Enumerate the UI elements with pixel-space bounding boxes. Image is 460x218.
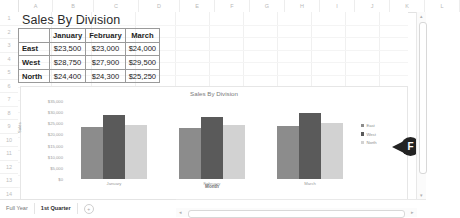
chart-bar-east[interactable] [81,127,103,179]
table-cell-value[interactable]: $27,900 [86,56,126,70]
chart-y-tick-label: $5,000 [50,165,63,170]
legend-swatch-east [361,124,364,127]
sales-data-table[interactable]: JanuaryFebruaryMarch East$23,500$23,000$… [18,28,160,83]
column-header-l[interactable]: L [425,0,460,12]
horizontal-scroll-thumb[interactable] [188,210,405,218]
chart-bar-group-february [163,101,261,179]
sheet-tab-bar[interactable]: Full Year1st Quarter+ [0,199,176,217]
table-cell-value[interactable]: $23,500 [50,42,86,56]
table-header-row: JanuaryFebruaryMarch [19,29,160,43]
chart-title: Sales By Division [21,90,407,97]
table-row-label-east[interactable]: East [19,42,50,56]
table-body: East$23,500$23,000$24,000West$28,750$27,… [19,42,160,83]
chart-y-tick-label: $0 [58,177,63,182]
column-header-d[interactable]: D [139,0,180,12]
chart-bar-group-march [261,101,359,179]
chart-bar-north[interactable] [321,123,343,179]
table-row[interactable]: East$23,500$23,000$24,000 [19,42,160,56]
legend-swatch-north [361,141,364,144]
chart-plot-area: JanuaryFebruaryMarch [65,101,359,179]
table-cell-value[interactable]: $24,000 [125,42,159,56]
chart-bar-north[interactable] [125,125,147,179]
excel-worksheet-window: ABCDEFGHIJKL 123456789101112131415 Sales… [0,0,426,217]
table-cell-value[interactable]: $28,750 [50,56,86,70]
chart-y-axis-title: Sales [17,123,22,133]
table-row[interactable]: North$24,400$24,300$25,250 [19,69,160,83]
column-header-f[interactable]: F [215,0,250,12]
column-header-k[interactable]: K [390,0,425,12]
table-corner-cell [19,29,50,43]
row-header-12[interactable]: 12 [0,161,18,175]
row-header-4[interactable]: 4 [0,53,18,67]
legend-swatch-west [361,132,364,135]
row-header-11[interactable]: 11 [0,147,18,161]
legend-label: North [366,140,376,145]
chart-y-axis: $35,000$30,000$25,000$20,000$15,000$10,0… [29,101,63,179]
chart-y-tick-label: $20,000 [48,132,63,137]
chart-y-tick-label: $10,000 [48,154,63,159]
vertical-scrollbar[interactable]: ▴ ▾ [416,12,426,200]
row-header-5[interactable]: 5 [0,66,18,80]
scroll-left-icon[interactable]: ◂ [176,208,185,217]
table-cell-value[interactable]: $24,300 [86,69,126,83]
sheet-tab-full-year[interactable]: Full Year [0,203,35,214]
scroll-right-icon[interactable]: ▸ [408,208,417,217]
column-header-h[interactable]: H [285,0,320,12]
column-header-j[interactable]: J [355,0,390,12]
legend-label: East [366,123,374,128]
chart-y-tick-label: $35,000 [48,99,63,104]
chart-bar-group-january [65,101,163,179]
table-cell-value[interactable]: $29,500 [125,56,159,70]
table-column-header-january[interactable]: January [50,29,86,43]
chart-legend-item-east[interactable]: East [361,123,401,128]
row-header-7[interactable]: 7 [0,93,18,107]
worksheet-title: Sales By Division [22,13,120,27]
column-header-i[interactable]: I [320,0,355,12]
vertical-scroll-thumb[interactable] [419,22,427,174]
select-all-corner[interactable] [0,0,19,12]
table-row[interactable]: West$28,750$27,900$29,500 [19,56,160,70]
row-header-9[interactable]: 9 [0,120,18,134]
column-header-c[interactable]: C [94,0,139,12]
column-header-a[interactable]: A [19,0,53,12]
horizontal-scrollbar[interactable]: ◂ ▸ [176,208,417,217]
add-sheet-icon[interactable]: + [84,204,94,214]
row-header-1[interactable]: 1 [0,12,18,26]
table-cell-value[interactable]: $24,400 [50,69,86,83]
column-header-e[interactable]: E [180,0,215,12]
scroll-up-icon[interactable]: ▴ [417,12,426,21]
row-header-column: 123456789101112131415 [0,12,19,200]
chart-y-tick-label: $15,000 [48,143,63,148]
row-header-6[interactable]: 6 [0,80,18,94]
row-header-3[interactable]: 3 [0,39,18,53]
legend-label: West [366,132,375,137]
table-column-header-february[interactable]: February [86,29,126,43]
chart-bar-east[interactable] [277,126,299,179]
chart-y-tick-label: $25,000 [48,121,63,126]
chart-bar-east[interactable] [179,128,201,179]
chart-bar-west[interactable] [103,115,125,179]
table-column-header-march[interactable]: March [125,29,159,43]
chart-x-axis-title: Month [65,184,359,189]
chart-y-tick-label: $30,000 [48,110,63,115]
chart-bar-west[interactable] [201,117,223,179]
chart-bar-west[interactable] [299,113,321,179]
row-header-8[interactable]: 8 [0,107,18,121]
row-header-2[interactable]: 2 [0,26,18,40]
sheet-tab-1st-quarter[interactable]: 1st Quarter [35,203,78,214]
row-header-10[interactable]: 10 [0,134,18,148]
table-row-label-west[interactable]: West [19,56,50,70]
table-cell-value[interactable]: $25,250 [125,69,159,83]
column-header-b[interactable]: B [53,0,94,12]
sales-bar-chart[interactable]: Sales By Division Sales $35,000$30,000$2… [20,86,408,200]
row-header-13[interactable]: 13 [0,174,18,188]
table-cell-value[interactable]: $23,000 [86,42,126,56]
table-row-label-north[interactable]: North [19,69,50,83]
column-header-g[interactable]: G [250,0,285,12]
chart-bar-north[interactable] [223,125,245,179]
